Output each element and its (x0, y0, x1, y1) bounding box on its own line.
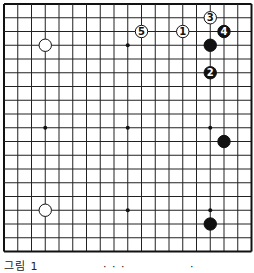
black-stone (218, 135, 230, 147)
star-point (126, 208, 130, 212)
star-point (208, 126, 212, 130)
white-stone (39, 204, 51, 216)
white-stone (39, 39, 51, 51)
move-number: 4 (221, 26, 228, 37)
move-number: 2 (207, 67, 214, 78)
go-board: 12345 (0, 0, 254, 256)
caption-dots: · · · (103, 260, 125, 273)
black-stone (204, 39, 216, 51)
star-point (126, 126, 130, 130)
star-point (126, 43, 130, 47)
move-number: 5 (138, 26, 145, 37)
star-point (43, 126, 47, 130)
move-number: 1 (179, 26, 186, 37)
move-number: 3 (207, 12, 214, 23)
black-stone (204, 218, 216, 230)
caption-dot: · (190, 260, 195, 273)
star-point (208, 208, 212, 212)
figure-caption: 그림 1 · · · · (4, 257, 254, 273)
caption-label: 그림 1 (4, 260, 39, 273)
